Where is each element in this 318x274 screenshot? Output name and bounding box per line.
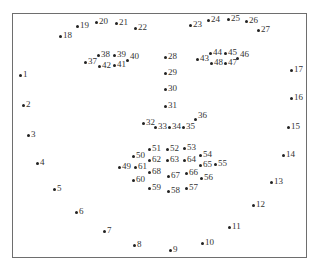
landmark-dot-icon [183, 159, 186, 162]
landmark-label: 20 [99, 17, 108, 26]
landmark-point: 58 [167, 186, 180, 195]
landmark-label: 8 [137, 240, 142, 249]
landmark-label: 1 [23, 70, 28, 79]
landmark-label: 57 [189, 183, 198, 192]
landmark-point: 50 [132, 151, 145, 160]
landmark-point: 17 [290, 65, 303, 74]
landmark-label: 56 [204, 173, 213, 182]
landmark-label: 31 [168, 101, 177, 110]
landmark-point: 46 [236, 53, 249, 62]
landmark-point: 42 [98, 61, 111, 70]
landmark-label: 60 [136, 175, 145, 184]
landmark-label: 42 [102, 61, 111, 70]
landmark-point: 11 [228, 222, 241, 231]
landmark-point: 39 [113, 50, 126, 59]
landmark-dot-icon [228, 226, 231, 229]
landmark-dot-icon [36, 162, 39, 165]
landmark-dot-icon [199, 164, 202, 167]
landmark-point: 37 [84, 57, 97, 66]
landmark-point: 67 [167, 171, 180, 180]
landmark-label: 54 [203, 150, 212, 159]
landmark-point: 49 [118, 162, 131, 171]
landmark-label: 58 [171, 186, 180, 195]
landmark-dot-icon [199, 154, 202, 157]
landmark-dot-icon [164, 88, 167, 91]
landmark-point: 59 [148, 183, 161, 192]
landmark-point: 31 [164, 101, 177, 110]
landmark-label: 64 [187, 155, 196, 164]
landmark-label: 26 [249, 16, 258, 25]
landmark-dot-icon [148, 187, 151, 190]
landmark-label: 36 [198, 111, 207, 120]
landmark-label: 63 [170, 155, 179, 164]
landmark-point: 12 [252, 200, 265, 209]
landmark-label: 59 [152, 183, 161, 192]
landmark-point: 2 [22, 100, 31, 109]
landmark-point: 61 [134, 162, 147, 171]
landmark-point: 29 [164, 68, 177, 77]
landmark-point: 30 [164, 84, 177, 93]
landmark-dot-icon [200, 177, 203, 180]
landmark-label: 18 [63, 31, 72, 40]
landmark-point: 55 [214, 159, 227, 168]
landmark-dot-icon [113, 64, 116, 67]
landmark-dot-icon [282, 154, 285, 157]
landmark-dot-icon [166, 148, 169, 151]
landmark-dot-icon [148, 159, 151, 162]
landmark-label: 55 [218, 159, 227, 168]
landmark-point: 6 [75, 207, 84, 216]
landmark-dot-icon [126, 59, 129, 62]
landmark-point: 43 [196, 54, 209, 63]
landmark-point: 52 [166, 144, 179, 153]
landmark-dot-icon [164, 56, 167, 59]
landmark-dot-icon [19, 74, 22, 77]
landmark-label: 2 [26, 100, 31, 109]
landmark-point: 18 [59, 31, 72, 40]
landmark-label: 38 [101, 50, 110, 59]
landmark-point: 26 [245, 16, 258, 25]
landmark-dot-icon [185, 172, 188, 175]
landmark-label: 30 [168, 84, 177, 93]
landmark-label: 14 [286, 150, 295, 159]
landmark-label: 10 [205, 238, 214, 247]
landmark-label: 37 [88, 57, 97, 66]
landmark-dot-icon [207, 19, 210, 22]
landmark-point: 68 [148, 167, 161, 176]
landmark-dot-icon [196, 58, 199, 61]
landmark-dot-icon [189, 24, 192, 27]
landmark-point: 33 [154, 122, 167, 131]
landmark-dot-icon [84, 61, 87, 64]
landmark-point: 7 [103, 226, 112, 235]
landmark-dot-icon [148, 171, 151, 174]
landmark-label: 39 [117, 50, 126, 59]
landmark-point: 44 [209, 48, 222, 57]
landmark-dot-icon [118, 166, 121, 169]
landmark-label: 43 [200, 54, 209, 63]
landmark-label: 68 [152, 167, 161, 176]
landmark-dot-icon [98, 65, 101, 68]
landmark-point: 3 [27, 130, 36, 139]
landmark-label: 3 [31, 130, 36, 139]
landmark-label: 16 [294, 93, 303, 102]
landmark-dot-icon [134, 27, 137, 30]
landmark-dot-icon [214, 163, 217, 166]
landmark-label: 53 [187, 143, 196, 152]
landmark-point: 47 [224, 58, 237, 67]
landmark-dot-icon [134, 166, 137, 169]
landmark-point: 38 [97, 50, 110, 59]
landmark-dot-icon [27, 134, 30, 137]
landmark-dot-icon [270, 181, 273, 184]
landmark-dot-icon [75, 211, 78, 214]
landmark-dot-icon [22, 104, 25, 107]
landmark-point: 22 [134, 23, 147, 32]
landmark-dot-icon [290, 69, 293, 72]
landmark-dot-icon [257, 29, 260, 32]
landmark-label: 15 [291, 122, 300, 131]
landmark-point: 15 [287, 122, 300, 131]
landmark-dot-icon [167, 190, 170, 193]
landmark-dot-icon [167, 175, 170, 178]
landmark-point: 66 [185, 168, 198, 177]
landmark-label: 21 [119, 18, 128, 27]
landmark-dot-icon [164, 105, 167, 108]
landmark-point: 40 [126, 55, 139, 64]
